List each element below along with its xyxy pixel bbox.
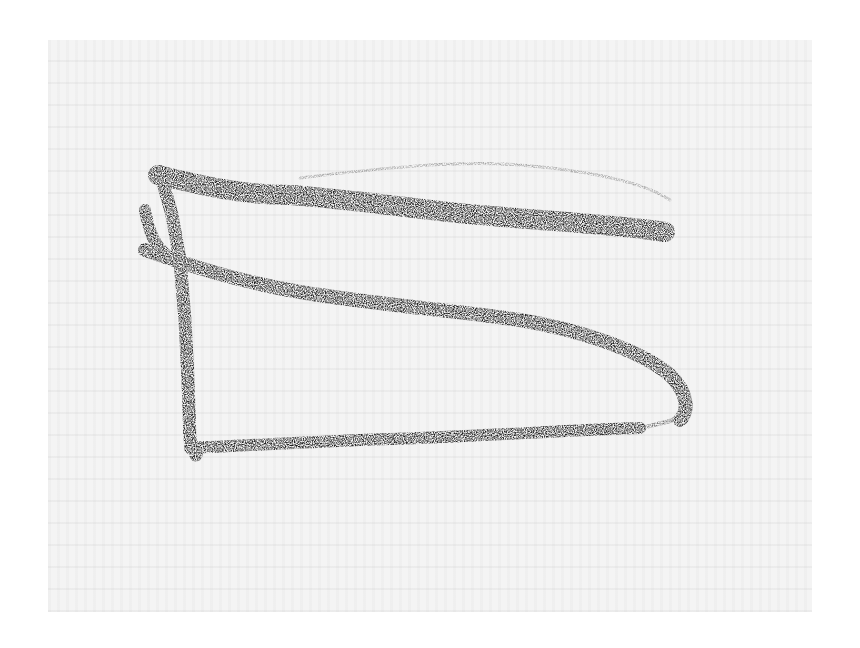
top-pennant <box>158 175 665 232</box>
lower-flag <box>145 250 686 420</box>
flag-pole <box>160 172 196 455</box>
flag-drawing <box>0 0 860 648</box>
